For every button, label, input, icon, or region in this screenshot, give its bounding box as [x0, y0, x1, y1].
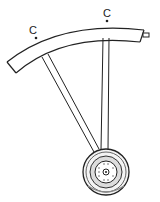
c-left-mark: [35, 37, 38, 40]
left-rod: [42, 54, 99, 152]
c-right-mark: [106, 20, 109, 23]
label-c-left: C: [29, 24, 37, 36]
right-rod: [101, 38, 109, 150]
scale-arc: [7, 28, 144, 73]
hub-wheel: [83, 149, 129, 195]
mechanism-drawing: C C: [0, 0, 160, 202]
label-c-right: C: [103, 7, 111, 19]
diagram-canvas: C C: [0, 0, 160, 202]
end-pin: [143, 33, 149, 37]
